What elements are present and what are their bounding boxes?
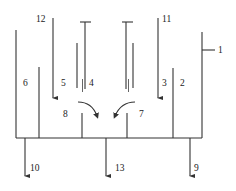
flow-arrow-8 bbox=[78, 102, 97, 116]
label-9: 9 bbox=[194, 163, 199, 173]
label-1: 1 bbox=[218, 45, 223, 55]
label-8: 8 bbox=[63, 109, 68, 119]
label-11: 11 bbox=[162, 14, 171, 24]
label-6: 6 bbox=[23, 78, 28, 88]
label-4: 4 bbox=[89, 78, 94, 88]
label-10: 10 bbox=[30, 163, 40, 173]
label-7: 7 bbox=[139, 109, 144, 119]
label-13: 13 bbox=[115, 163, 125, 173]
label-12: 12 bbox=[36, 14, 46, 24]
rod-right bbox=[122, 22, 133, 92]
label-5: 5 bbox=[61, 78, 66, 88]
label-2: 2 bbox=[180, 78, 185, 88]
flow-arrow-7 bbox=[115, 102, 135, 116]
diagram-canvas: 1 2 3 4 5 6 7 8 9 10 11 12 13 bbox=[0, 0, 236, 191]
outer-wall-right bbox=[202, 32, 215, 138]
label-3: 3 bbox=[162, 78, 167, 88]
